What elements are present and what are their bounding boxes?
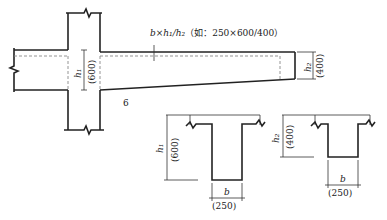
svg-text:b: b (224, 187, 230, 197)
svg-text:(600): (600) (170, 138, 180, 162)
figure-number: 6 (123, 98, 129, 108)
svg-text:(600): (600) (87, 60, 97, 84)
left-beam (10, 48, 68, 92)
svg-text:h₁: h₁ (155, 144, 165, 153)
svg-text:h₁: h₁ (73, 69, 83, 78)
section-root: h₁ (600) b (250) (155, 115, 265, 211)
svg-text:h₂: h₂ (271, 133, 281, 143)
svg-text:(250): (250) (212, 201, 236, 211)
section-tip: h₂ (400) b (250) (271, 115, 375, 198)
svg-text:(250): (250) (328, 188, 352, 198)
haunched-cantilever-beam-diagram: b×h₁/h₂（如：250×600/400） h₁ (600) h₂ (400)… (0, 0, 387, 220)
svg-text:h₂: h₂ (303, 62, 313, 72)
tapered-cantilever (100, 52, 295, 90)
svg-text:(400): (400) (285, 125, 295, 149)
svg-text:b: b (340, 174, 346, 184)
h2-dimension-elevation: h₂ (400) (297, 52, 325, 79)
beam-annotation: b×h₁/h₂（如：250×600/400） (150, 27, 283, 38)
h1-dimension-elevation: h₁ (600) (73, 50, 97, 90)
svg-text:(400): (400) (315, 54, 325, 78)
